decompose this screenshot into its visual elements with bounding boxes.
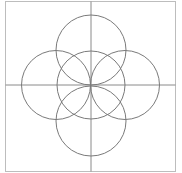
geometric-circles-diagram — [0, 0, 182, 173]
